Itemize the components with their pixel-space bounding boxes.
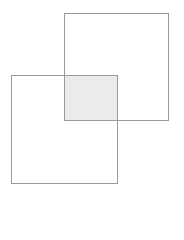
- square-bottom-left: [11, 75, 118, 184]
